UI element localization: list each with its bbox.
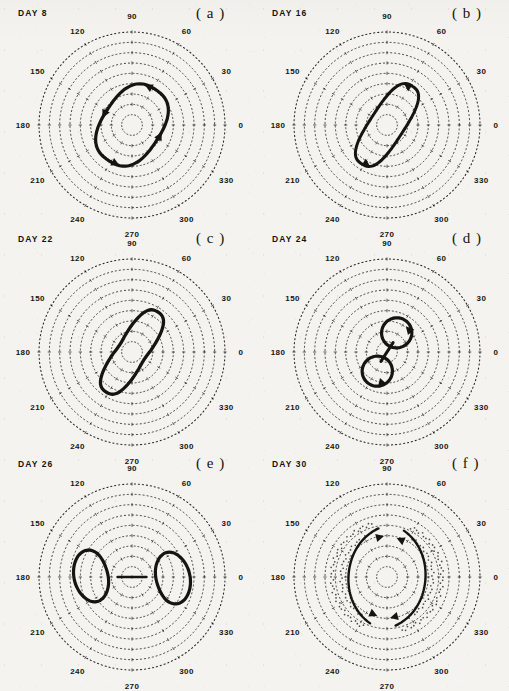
figure-caption bbox=[42, 681, 472, 691]
angle-label-30: 30 bbox=[222, 294, 232, 303]
angle-label-300: 300 bbox=[179, 667, 194, 676]
angle-label-180: 180 bbox=[16, 348, 31, 357]
polar-panel-b: DAY 16 ( b ) 030609012015018021024027030… bbox=[254, 0, 509, 230]
angle-label-90: 90 bbox=[382, 239, 392, 248]
angle-label-60: 60 bbox=[182, 27, 192, 36]
polar-axes-e: 0306090120150180210240270300330 bbox=[0, 455, 254, 680]
polar-axes-f: 0306090120150180210240270300330 bbox=[254, 455, 509, 680]
angle-label-0: 0 bbox=[494, 348, 499, 357]
polar-axes-d: 0306090120150180210240270300330 bbox=[254, 230, 509, 455]
angle-label-90: 90 bbox=[127, 239, 137, 248]
polar-axes-a: 0306090120150180210240270300330 bbox=[0, 0, 254, 230]
angle-label-180: 180 bbox=[16, 121, 31, 130]
data-curve-a bbox=[96, 84, 169, 166]
angle-label-240: 240 bbox=[70, 667, 85, 676]
polar-panel-c: DAY 22 ( c ) 030609012015018021024027030… bbox=[0, 230, 254, 455]
angle-label-150: 150 bbox=[285, 67, 300, 76]
angle-label-30: 30 bbox=[477, 519, 487, 528]
polar-grid-a: 0306090120150180210240270300330 bbox=[16, 12, 244, 239]
polar-axes-c: 0306090120150180210240270300330 bbox=[0, 230, 254, 455]
angle-label-300: 300 bbox=[434, 215, 449, 224]
angle-label-90: 90 bbox=[127, 464, 137, 473]
angle-label-210: 210 bbox=[285, 403, 300, 412]
angle-label-0: 0 bbox=[239, 121, 244, 130]
angle-label-240: 240 bbox=[70, 442, 85, 451]
angle-label-120: 120 bbox=[325, 479, 340, 488]
angle-label-60: 60 bbox=[182, 479, 192, 488]
angle-label-0: 0 bbox=[239, 573, 244, 582]
angle-label-120: 120 bbox=[325, 254, 340, 263]
polar-panel-d: DAY 24 ( d ) 030609012015018021024027030… bbox=[254, 230, 509, 455]
angle-label-30: 30 bbox=[222, 67, 232, 76]
angle-label-120: 120 bbox=[70, 479, 85, 488]
angle-label-300: 300 bbox=[179, 215, 194, 224]
angle-label-180: 180 bbox=[271, 121, 286, 130]
angle-label-180: 180 bbox=[271, 348, 286, 357]
polar-panel-a: DAY 8 ( a ) 0306090120150180210240270300… bbox=[0, 0, 254, 230]
angle-label-330: 330 bbox=[474, 628, 489, 637]
angle-label-300: 300 bbox=[434, 667, 449, 676]
polar-grid-d: 0306090120150180210240270300330 bbox=[271, 239, 499, 466]
panel-grid: DAY 8 ( a ) 0306090120150180210240270300… bbox=[0, 0, 509, 691]
angle-label-180: 180 bbox=[16, 573, 31, 582]
angle-label-150: 150 bbox=[30, 67, 45, 76]
angle-label-0: 0 bbox=[494, 121, 499, 130]
angle-label-150: 150 bbox=[285, 294, 300, 303]
polar-panel-f: DAY 30 ( f ) 030609012015018021024027030… bbox=[254, 455, 509, 680]
polar-grid-f: 0306090120150180210240270300330 bbox=[271, 464, 499, 691]
angle-label-210: 210 bbox=[30, 176, 45, 185]
angle-label-210: 210 bbox=[285, 176, 300, 185]
angle-label-210: 210 bbox=[285, 628, 300, 637]
polar-axes-b: 0306090120150180210240270300330 bbox=[254, 0, 509, 230]
angle-label-90: 90 bbox=[382, 464, 392, 473]
angle-label-30: 30 bbox=[222, 519, 232, 528]
polar-grid-c: 0306090120150180210240270300330 bbox=[16, 239, 244, 466]
angle-label-120: 120 bbox=[70, 254, 85, 263]
angle-label-150: 150 bbox=[30, 294, 45, 303]
figure-root: DAY 8 ( a ) 0306090120150180210240270300… bbox=[0, 0, 509, 691]
angle-label-330: 330 bbox=[219, 628, 234, 637]
angle-label-90: 90 bbox=[127, 12, 137, 21]
angle-label-240: 240 bbox=[325, 667, 340, 676]
angle-label-210: 210 bbox=[30, 628, 45, 637]
angle-label-330: 330 bbox=[474, 403, 489, 412]
angle-label-60: 60 bbox=[437, 254, 447, 263]
angle-label-60: 60 bbox=[182, 254, 192, 263]
angle-label-240: 240 bbox=[325, 215, 340, 224]
angle-label-30: 30 bbox=[477, 294, 487, 303]
angle-label-120: 120 bbox=[325, 27, 340, 36]
angle-label-120: 120 bbox=[70, 27, 85, 36]
angle-label-180: 180 bbox=[271, 573, 286, 582]
angle-label-240: 240 bbox=[70, 215, 85, 224]
angle-label-0: 0 bbox=[239, 348, 244, 357]
angle-label-300: 300 bbox=[434, 442, 449, 451]
angle-label-60: 60 bbox=[437, 27, 447, 36]
angle-label-300: 300 bbox=[179, 442, 194, 451]
angle-label-330: 330 bbox=[474, 176, 489, 185]
angle-label-30: 30 bbox=[477, 67, 487, 76]
angle-label-330: 330 bbox=[219, 176, 234, 185]
angle-label-210: 210 bbox=[30, 403, 45, 412]
angle-label-0: 0 bbox=[494, 573, 499, 582]
angle-label-90: 90 bbox=[382, 12, 392, 21]
angle-label-330: 330 bbox=[219, 403, 234, 412]
polar-panel-e: DAY 26 ( e ) 030609012015018021024027030… bbox=[0, 455, 254, 680]
angle-label-240: 240 bbox=[325, 442, 340, 451]
angle-label-150: 150 bbox=[30, 519, 45, 528]
angle-label-150: 150 bbox=[285, 519, 300, 528]
polar-grid-b: 0306090120150180210240270300330 bbox=[271, 12, 499, 239]
angle-label-60: 60 bbox=[437, 479, 447, 488]
